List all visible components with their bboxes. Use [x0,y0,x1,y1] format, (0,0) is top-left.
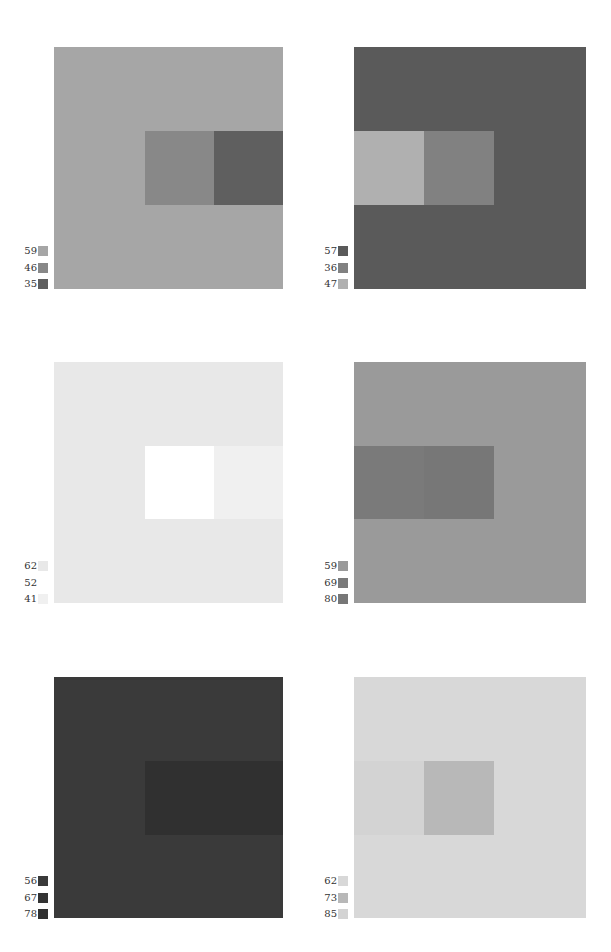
legend-swatch [38,594,48,604]
legend-label: 69 [324,577,337,589]
legend-item: 78 [0,909,50,919]
inner-block-left [354,131,424,205]
legend-label: 36 [324,262,337,274]
inner-block-right [214,761,283,835]
legend-swatch [338,909,348,919]
legend-label: 73 [324,892,337,904]
legend-item: 85 [300,909,350,919]
legend-swatch [338,893,348,903]
legend-swatch [38,263,48,273]
inner-block-left [145,131,214,205]
legend-item: 62 [300,876,350,886]
legend-label: 47 [324,278,337,290]
legend-item: 57 [300,246,350,256]
panel-middle-right-inner-rect [354,446,494,519]
legend-item: 35 [0,279,50,289]
legend-label: 67 [24,892,37,904]
legend-swatch [338,594,348,604]
legend-item: 56 [0,876,50,886]
legend-item: 59 [300,561,350,571]
legend-swatch [38,279,48,289]
inner-block-left [145,446,214,519]
legend-swatch [338,246,348,256]
legend-item: 73 [300,893,350,903]
legend-swatch [38,909,48,919]
legend-item: 62 [0,561,50,571]
inner-block-right [214,446,283,519]
legend-label: 56 [24,875,37,887]
legend-item: 41 [0,594,50,604]
panel-bottom-left-inner-rect [145,761,283,835]
legend-label: 80 [324,593,337,605]
inner-block-left [145,761,214,835]
legend-swatch [38,246,48,256]
legend-swatch [338,279,348,289]
legend-swatch [338,578,348,588]
legend-swatch [38,561,48,571]
legend-item: 36 [300,263,350,273]
panel-middle-left-inner-rect [145,446,283,519]
legend-swatch [38,893,48,903]
inner-block-right [424,131,494,205]
legend-label: 46 [24,262,37,274]
inner-block-right [214,131,283,205]
inner-block-right [424,761,494,835]
legend-label: 59 [24,245,37,257]
legend-swatch [338,561,348,571]
legend-label: 59 [324,560,337,572]
legend-item: 52 [0,578,50,588]
legend-swatch [38,578,48,588]
legend-item: 47 [300,279,350,289]
panel-top-left-inner-rect [145,131,283,205]
legend-swatch [338,876,348,886]
legend-label: 41 [24,593,37,605]
legend-label: 85 [324,908,337,920]
legend-label: 52 [24,577,37,589]
inner-block-left [354,761,424,835]
legend-label: 35 [24,278,37,290]
legend-item: 67 [0,893,50,903]
legend-label: 57 [324,245,337,257]
legend-swatch [338,263,348,273]
legend-swatch [38,876,48,886]
panel-top-right-inner-rect [354,131,494,205]
inner-block-right [424,446,494,519]
legend-item: 69 [300,578,350,588]
legend-item: 59 [0,246,50,256]
inner-block-left [354,446,424,519]
legend-label: 62 [24,560,37,572]
legend-label: 78 [24,908,37,920]
legend-item: 46 [0,263,50,273]
legend-item: 80 [300,594,350,604]
legend-label: 62 [324,875,337,887]
panel-bottom-right-inner-rect [354,761,494,835]
